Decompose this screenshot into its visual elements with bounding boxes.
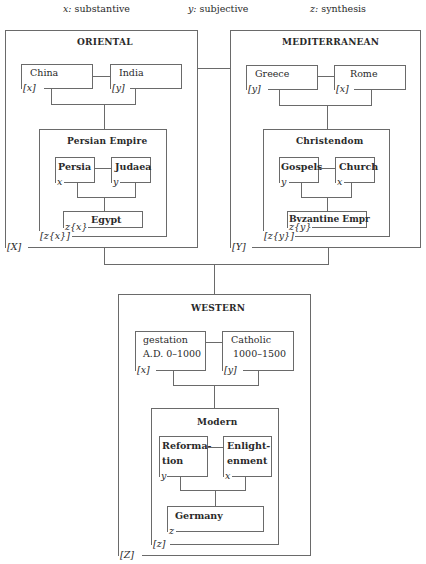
rome-label: Rome: [350, 68, 378, 79]
mediterranean-to-christendom-connector: [327, 105, 328, 129]
oriental-mediterranean-connector: [198, 68, 230, 69]
catholic-line1: Catholic: [231, 334, 271, 345]
gospels-church-connector: [319, 168, 335, 169]
reformation-drop: [180, 476, 181, 490]
gestation-catholic-connector: [206, 342, 222, 343]
china-india-connector: [93, 76, 110, 77]
byzantine-bottom-line: [309, 227, 367, 228]
oriental-title: ORIENTAL: [77, 37, 133, 47]
catholic-tag: [y]: [223, 365, 238, 375]
greece-rome-join: [279, 105, 372, 106]
enlightenment-line2: enment: [227, 455, 267, 466]
reformation-enlightenment-connector: [208, 447, 223, 448]
legend-z-key: z:: [310, 3, 318, 14]
legend-z-label: synthesis: [321, 3, 366, 14]
oriental-mediterranean-join: [104, 264, 329, 265]
church-bottom-line: [344, 182, 375, 183]
reformation-enlightenment-join: [180, 490, 246, 491]
reformation-line2: tion: [162, 455, 183, 466]
gestation-drop: [173, 370, 174, 385]
greece-label: Greece: [255, 68, 289, 79]
christendom-bottom-line: [295, 236, 390, 237]
enlightenment-tag: x: [224, 471, 231, 481]
to-western-connector: [214, 264, 215, 294]
mediterranean-bottom-line: [252, 247, 421, 248]
legend-y: y: subjective: [188, 3, 248, 14]
persian-bottom-line: [72, 236, 167, 237]
egypt-bottom-line: [84, 227, 143, 228]
india-bottom-line: [130, 88, 182, 89]
legend-z: z: synthesis: [310, 3, 366, 14]
germany-tag: z: [168, 526, 175, 536]
modern-label: [z]: [152, 539, 166, 549]
catholic-line2: 1000–1500: [233, 348, 286, 359]
china-tag: [x]: [22, 83, 37, 93]
gestation-line2: A.D. 0–1000: [143, 348, 201, 359]
rome-bottom-line: [354, 89, 406, 90]
egypt-tag: z{x}: [64, 222, 88, 232]
persia-label: Persia: [58, 161, 91, 172]
enlightenment-bottom-line: [232, 476, 272, 477]
enlightenment-line1: Enlight-: [227, 440, 270, 451]
greece-rome-connector: [318, 76, 334, 77]
to-germany-connector: [215, 490, 216, 506]
judaea-drop: [135, 182, 136, 197]
mediterranean-title: MEDITERRANEAN: [282, 37, 379, 47]
gospels-tag: y: [280, 177, 287, 187]
greece-tag: [y]: [247, 84, 262, 94]
judaea-label: Judaea: [115, 161, 151, 172]
greece-bottom-line: [268, 89, 318, 90]
byzantine-tag: z{y}: [288, 222, 312, 232]
western-bottom-line: [142, 555, 311, 556]
gospels-drop: [301, 182, 302, 197]
gestation-tag: [x]: [136, 365, 151, 375]
legend-y-label: subjective: [200, 3, 249, 14]
reformation-line1: Reforma-: [162, 440, 212, 451]
western-label: [Z]: [119, 550, 135, 560]
india-drop: [135, 88, 136, 104]
china-drop: [51, 88, 52, 104]
germany-bottom-line: [176, 531, 264, 532]
church-tag: x: [336, 177, 343, 187]
china-label: China: [30, 67, 58, 78]
germany-label: Germany: [175, 510, 223, 521]
persia-tag: x: [56, 177, 63, 187]
greece-drop: [279, 89, 280, 105]
mediterranean-label: [Y]: [231, 242, 247, 252]
legend-x-label: substantive: [75, 3, 130, 14]
christendom-title: Christendom: [296, 136, 363, 146]
gospels-label: Gospels: [281, 161, 322, 172]
to-egypt-connector: [104, 197, 105, 211]
persia-bottom-line: [64, 182, 95, 183]
persia-judaea-connector: [95, 168, 111, 169]
reformation-tag: y: [160, 471, 167, 481]
catholic-drop: [258, 370, 259, 385]
gestation-catholic-join: [173, 385, 259, 386]
christendom-label: [z{y}]: [263, 231, 295, 241]
india-tag: [y]: [111, 83, 126, 93]
judaea-tag: y: [112, 177, 119, 187]
persia-judaea-join: [77, 197, 136, 198]
india-label: India: [119, 67, 144, 78]
egypt-label: Egypt: [91, 214, 121, 225]
western-title: WESTERN: [191, 303, 245, 313]
church-label: Church: [339, 161, 378, 172]
catholic-bottom-line: [243, 370, 294, 371]
persian-empire-title: Persian Empire: [67, 136, 147, 146]
modern-title: Modern: [197, 417, 237, 427]
rome-tag: [x]: [335, 84, 350, 94]
oriental-to-persian-connector: [104, 104, 105, 129]
oriental-label: [X]: [6, 242, 22, 252]
to-modern-connector: [214, 385, 215, 408]
persia-drop: [77, 182, 78, 197]
legend-x: x: substantive: [63, 3, 130, 14]
oriental-bottom-line: [28, 247, 198, 248]
rome-drop: [371, 89, 372, 105]
gestation-line1: gestation: [143, 334, 188, 345]
mediterranean-drop: [328, 247, 329, 264]
to-byzantine-connector: [327, 197, 328, 211]
church-drop: [351, 182, 352, 197]
persian-empire-label: [z{x}]: [39, 231, 71, 241]
reformation-bottom-line: [167, 476, 208, 477]
oriental-drop: [104, 247, 105, 264]
